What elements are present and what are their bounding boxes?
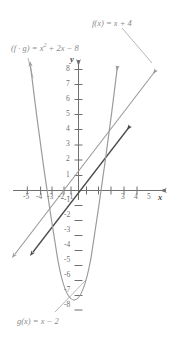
xtick-label--3: -3 [47,192,53,201]
xtick-label-5: 5 [147,192,151,201]
ytick-label--1: -1 [64,195,70,204]
line-f [15,70,156,254]
parabola-product [31,66,118,300]
leader-line-f [122,28,152,63]
graph-figure: -5 -4 -3 -2 -1 3 4 5 8 7 6 5 4 3 2 1 -1 … [0,0,176,339]
leader-line-product [28,58,33,78]
ytick-label--3: -3 [64,225,70,234]
ytick-label-8: 8 [66,64,70,73]
ytick-label--8: -8 [64,300,70,309]
ytick-label-6: 6 [66,94,70,103]
xtick-label--5: -5 [23,192,29,201]
product-equation-prefix: (f · g) = x [11,43,43,53]
ytick-label-1: 1 [66,170,70,179]
g-equation-label: g(x) = x − 2 [17,316,59,326]
xtick-label--4: -4 [36,192,42,201]
x-axis-label: x [158,192,162,202]
ytick-label-4: 4 [66,124,70,133]
ytick-label-7: 7 [66,79,70,88]
f-equation-label: f(x) = x + 4 [92,18,132,28]
ytick-label--5: -5 [64,255,70,264]
ytick-label-3: 3 [66,139,70,148]
xtick-label-4: 4 [134,192,138,201]
ytick-label-2: 2 [66,154,70,163]
product-equation-label: (f · g) = x2 + 2x − 8 [11,43,79,53]
ytick-label--2: -2 [64,210,70,219]
xtick-label-3: 3 [121,192,125,201]
ytick-label--6: -6 [64,270,70,279]
y-axis-label: y [70,54,74,64]
ytick-label--4: -4 [64,240,70,249]
product-equation-suffix: + 2x − 8 [46,43,78,53]
ytick-label--7: -7 [64,285,70,294]
ytick-label-5: 5 [66,109,70,118]
